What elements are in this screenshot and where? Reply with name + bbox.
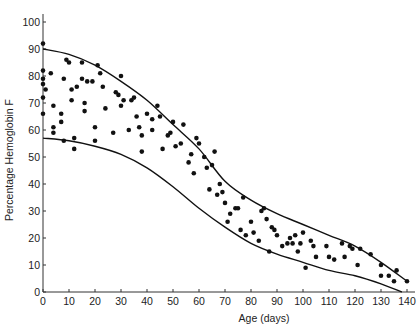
data-point — [379, 263, 384, 268]
y-tick-label: 0 — [34, 286, 40, 298]
data-point — [168, 130, 173, 135]
upper-envelope-curve — [43, 49, 407, 281]
data-point — [41, 82, 46, 87]
data-point — [93, 125, 98, 130]
data-point — [132, 95, 137, 100]
data-point — [368, 252, 373, 257]
data-point — [140, 149, 145, 154]
x-tick-label: 80 — [245, 295, 257, 307]
data-point — [215, 193, 220, 198]
data-point — [241, 195, 246, 200]
data-point — [251, 230, 256, 235]
data-point — [155, 103, 160, 108]
data-point — [202, 155, 207, 160]
data-point — [342, 255, 347, 260]
data-point — [98, 71, 103, 76]
data-point — [205, 166, 210, 171]
data-point — [121, 98, 126, 103]
data-point — [145, 112, 150, 117]
data-point — [95, 63, 100, 68]
data-point — [218, 182, 223, 187]
x-tick-label: 130 — [372, 295, 390, 307]
data-point — [405, 279, 410, 284]
data-point — [179, 141, 184, 146]
y-tick-label: 40 — [28, 178, 40, 190]
y-axis-title: Percentage Hemoglobin F — [3, 99, 15, 221]
data-point — [225, 220, 230, 225]
data-point — [82, 101, 87, 106]
data-point — [264, 217, 269, 222]
data-point — [116, 93, 121, 98]
data-point — [186, 160, 191, 165]
x-tick-label: 10 — [63, 295, 75, 307]
data-point — [340, 241, 345, 246]
data-point — [119, 74, 124, 79]
data-point — [90, 79, 95, 84]
data-point — [207, 187, 212, 192]
data-point — [272, 228, 277, 233]
data-point — [80, 76, 85, 81]
data-point — [43, 87, 48, 92]
data-point — [257, 238, 262, 243]
data-point — [262, 206, 267, 211]
data-point — [41, 76, 46, 81]
data-point — [267, 249, 272, 254]
data-point — [324, 244, 329, 249]
data-point — [285, 241, 290, 246]
y-tick-label: 60 — [28, 124, 40, 136]
data-point — [244, 233, 249, 238]
x-tick-label: 140 — [398, 295, 416, 307]
data-point — [41, 41, 46, 46]
data-point — [69, 87, 74, 92]
data-point — [298, 241, 303, 246]
data-point — [150, 128, 155, 133]
data-point — [392, 279, 397, 284]
y-tick-label: 80 — [28, 70, 40, 82]
data-point — [59, 112, 64, 117]
data-point — [275, 233, 280, 238]
y-tick-label: 10 — [28, 259, 40, 271]
scatter-chart: 0102030405060708090100110120130140010203… — [0, 0, 420, 329]
data-point — [160, 147, 165, 152]
data-point — [379, 274, 384, 279]
data-point — [194, 136, 199, 141]
y-tick-label: 50 — [28, 151, 40, 163]
data-point — [220, 190, 225, 195]
x-tick-label: 70 — [219, 295, 231, 307]
data-point — [171, 120, 176, 125]
data-point — [311, 244, 316, 249]
data-point — [62, 76, 67, 81]
data-point — [173, 144, 178, 149]
x-tick-label: 120 — [346, 295, 364, 307]
data-point — [314, 255, 319, 260]
data-point — [62, 139, 67, 144]
data-point — [350, 247, 355, 252]
lower-envelope-curve — [43, 138, 402, 292]
data-point — [358, 247, 363, 252]
data-point — [93, 139, 98, 144]
y-tick-label: 70 — [28, 97, 40, 109]
x-axis-title: Age (days) — [239, 312, 290, 324]
data-point — [192, 171, 197, 176]
data-point — [51, 125, 56, 130]
data-point — [394, 268, 399, 273]
data-point — [111, 130, 116, 135]
data-point — [355, 263, 360, 268]
data-point — [67, 60, 72, 65]
data-point — [72, 136, 77, 141]
x-tick-label: 0 — [40, 295, 46, 307]
data-point — [134, 114, 139, 119]
x-tick-label: 100 — [294, 295, 312, 307]
data-point — [387, 274, 392, 279]
y-tick-label: 30 — [28, 205, 40, 217]
data-point — [332, 257, 337, 262]
data-point — [210, 163, 215, 168]
y-tick-label: 100 — [22, 16, 40, 28]
data-point — [228, 211, 233, 216]
y-tick-label: 20 — [28, 232, 40, 244]
data-point — [80, 60, 85, 65]
data-point — [51, 130, 56, 135]
x-tick-label: 90 — [271, 295, 283, 307]
data-point — [236, 206, 241, 211]
x-tick-label: 110 — [321, 295, 338, 307]
